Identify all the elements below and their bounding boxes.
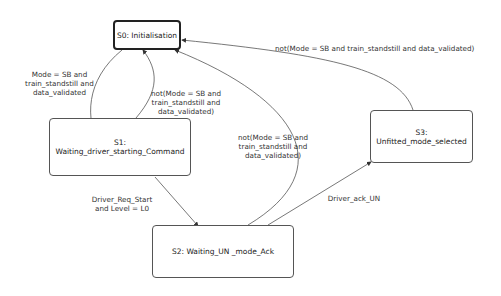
label-line: train_standstill and	[235, 142, 311, 151]
state-s2-waiting-un-mode-ack[interactable]: S2: Waiting_UN _mode_Ack	[152, 225, 294, 278]
state-label: S2: Waiting_UN _mode_Ack	[172, 247, 274, 256]
transition-label-s1-s2: Driver_Req_Start and Level = L0	[90, 195, 154, 213]
transition-label-s2-s3: Driver_ack_UN	[324, 194, 384, 203]
edge-s1-s2	[155, 177, 198, 226]
label-line: data_validated)	[235, 151, 311, 160]
state-s1-waiting-driver-starting-command[interactable]: S1: Waiting_driver_starting_Command	[49, 118, 191, 176]
label-line: Driver_ack_UN	[324, 194, 384, 203]
transition-label-s1-s0: not(Mode = SB and train_standstill and d…	[146, 89, 226, 116]
state-label: S1: Waiting_driver_starting_Command	[50, 138, 190, 156]
label-line: data_validated	[22, 88, 97, 97]
label-line: and Level = L0	[90, 204, 154, 213]
state-s3-unfitted-mode-selected[interactable]: S3: Unfitted_mode_selected	[370, 110, 473, 163]
transition-label-s2-s0: not(Mode = SB and train_standstill and d…	[235, 133, 311, 160]
label-line: data_validated)	[146, 107, 226, 116]
label-line: Driver_Req_Start	[90, 195, 154, 204]
state-label: S3: Unfitted_mode_selected	[371, 128, 472, 146]
label-line: not(Mode = SB and	[235, 133, 311, 142]
label-line: train_standstill and	[22, 79, 97, 88]
label-line: Mode = SB and	[22, 70, 97, 79]
label-line: train_standstill and	[146, 98, 226, 107]
label-line: not(Mode = SB and	[146, 89, 226, 98]
state-label: S0: Initialisation	[117, 31, 177, 40]
state-s0-initialisation[interactable]: S0: Initialisation	[113, 20, 181, 50]
transition-label-s3-s0: not(Mode = SB and train_standstill and d…	[275, 44, 465, 53]
label-line: not(Mode = SB and train_standstill and d…	[275, 44, 465, 53]
transition-label-s0-s1: Mode = SB and train_standstill and data_…	[22, 70, 97, 97]
